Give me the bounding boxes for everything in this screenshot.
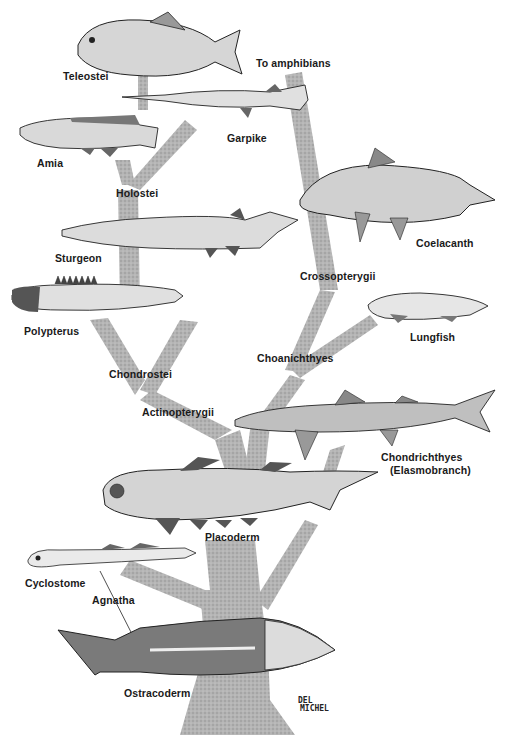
garpike-fish-illustration [122, 84, 308, 118]
cyclostome-fish-illustration [28, 543, 196, 567]
label-cyclostome: Cyclostome [25, 577, 86, 589]
label-choanichthyes: Choanichthyes [257, 352, 334, 364]
label-lungfish: Lungfish [410, 331, 455, 343]
coelacanth-fish-illustration [300, 148, 495, 242]
fish-evolution-diagram: Teleostei To amphibians Garpike Amia Hol… [0, 0, 514, 749]
label-polypterus: Polypterus [24, 325, 79, 337]
tree-branches [0, 0, 514, 749]
label-crossopterygii: Crossopterygii [300, 270, 376, 282]
label-garpike: Garpike [227, 132, 267, 144]
label-sturgeon: Sturgeon [55, 252, 102, 264]
label-actinopterygii: Actinopterygii [142, 406, 214, 418]
label-teleostei: Teleostei [63, 70, 109, 82]
label-amia: Amia [37, 157, 63, 169]
ostracoderm-fish-illustration [58, 618, 335, 675]
amia-fish-illustration [20, 115, 158, 157]
label-to-amphibians: To amphibians [256, 57, 331, 69]
teleostei-fish-illustration [78, 12, 242, 76]
label-ostracoderm: Ostracoderm [124, 687, 190, 699]
label-elasmobranch: (Elasmobranch) [390, 464, 471, 476]
label-placoderm: Placoderm [205, 531, 260, 543]
sturgeon-fish-illustration [62, 208, 298, 258]
label-holostei: Holostei [116, 187, 158, 199]
artist-signature: DEL MICHEL [298, 697, 329, 713]
label-coelacanth: Coelacanth [416, 237, 474, 249]
label-chondrichthyes: Chondrichthyes [381, 451, 462, 463]
lungfish-fish-illustration [368, 293, 488, 323]
signature-line-2: MICHEL [298, 705, 329, 713]
label-chondrostei: Chondrostei [109, 368, 172, 380]
label-agnatha: Agnatha [92, 594, 135, 606]
polypterus-fish-illustration [12, 276, 183, 312]
